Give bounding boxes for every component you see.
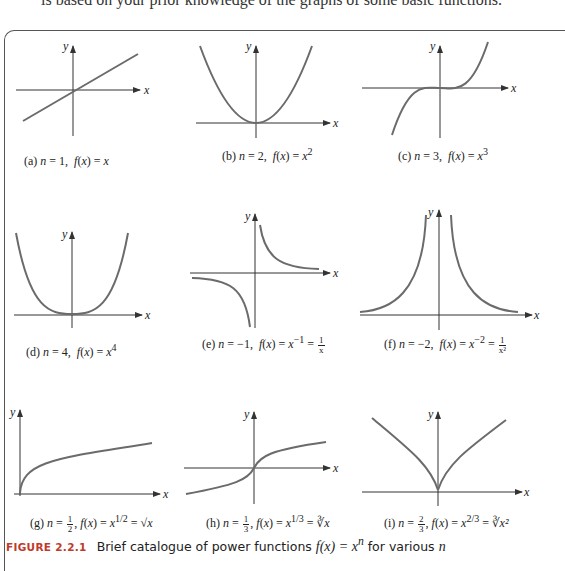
svg-text:x: x: [332, 266, 339, 280]
graph-two-thirds-power: y x: [360, 380, 543, 530]
caption-f: (f) n = −2, f(x) = x−2 = 1x²: [384, 334, 507, 355]
caption-e: (e) n = −1, f(x) = x−1 = 1x: [202, 334, 326, 355]
svg-text:x: x: [332, 461, 339, 475]
svg-text:y: y: [427, 407, 434, 421]
graph-linear: y x: [0, 0, 180, 200]
svg-text:x: x: [332, 116, 339, 130]
svg-text:y: y: [429, 39, 436, 53]
graph-cube-root: y x: [180, 380, 360, 530]
svg-text:x: x: [143, 83, 150, 97]
caption-d: (d) n = 4, f(x) = x4: [26, 342, 117, 360]
svg-text:y: y: [427, 205, 434, 219]
caption-i: (i) n = 23, f(x) = x2/3 = ∛x²: [384, 513, 509, 534]
figure-caption: FIGURE 2.2.1 Brief catalogue of power fu…: [6, 535, 446, 555]
caption-a: (a) n = 1, f(x) = x: [24, 154, 109, 169]
svg-text:x: x: [523, 485, 530, 499]
svg-text:y: y: [243, 407, 250, 421]
caption-g: (g) n = 12, f(x) = x1/2 = √x: [30, 513, 153, 534]
svg-text:x: x: [533, 308, 540, 322]
figure-label: FIGURE 2.2.1: [6, 541, 87, 553]
svg-text:x: x: [144, 308, 151, 322]
svg-text:y: y: [61, 227, 68, 241]
graph-square-root: y x: [0, 380, 180, 530]
caption-h: (h) n = 13, f(x) = x1/3 = ∛x: [206, 513, 330, 534]
graph-cubic: y x: [360, 0, 543, 200]
svg-text:y: y: [9, 405, 16, 419]
svg-text:y: y: [245, 39, 252, 53]
svg-text:x: x: [162, 487, 169, 501]
graph-quadratic: y x: [180, 0, 360, 200]
caption-c: (c) n = 3, f(x) = x3: [398, 146, 488, 164]
svg-text:x: x: [510, 81, 517, 95]
svg-text:y: y: [244, 209, 251, 223]
svg-text:y: y: [62, 39, 69, 53]
caption-b: (b) n = 2, f(x) = x2: [222, 146, 313, 164]
